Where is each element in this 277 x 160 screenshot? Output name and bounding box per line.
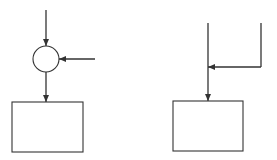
left-diagram	[12, 10, 95, 152]
block-diagram-canvas	[0, 0, 277, 160]
right-diagram	[173, 23, 261, 151]
summing-junction-circle	[33, 46, 59, 72]
right-block	[173, 101, 243, 151]
left-block	[12, 102, 83, 152]
